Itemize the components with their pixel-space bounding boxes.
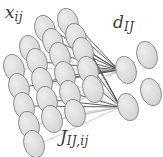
output-nodes-layer	[112, 39, 163, 124]
node-ellipse	[137, 76, 163, 109]
output-node	[112, 54, 140, 87]
output-layer-label: dIJ	[113, 14, 134, 34]
node-ellipse	[114, 91, 142, 124]
input-layer-label: xij	[5, 4, 23, 24]
network-diagram: xij dIJ JIJ,ij	[0, 0, 163, 157]
output-node	[133, 39, 161, 72]
node-ellipse	[133, 39, 161, 72]
weights-label: JIJ,ij	[60, 128, 88, 148]
node-ellipse	[112, 54, 140, 87]
output-node	[114, 91, 142, 124]
output-node	[137, 76, 163, 109]
weights-symbol: J	[60, 126, 67, 146]
weights-subscript: IJ,ij	[67, 134, 89, 148]
output-layer-subscript: IJ	[124, 20, 134, 34]
input-layer-symbol: x	[5, 2, 15, 22]
output-layer-symbol: d	[113, 12, 124, 32]
input-layer-subscript: ij	[15, 10, 23, 24]
